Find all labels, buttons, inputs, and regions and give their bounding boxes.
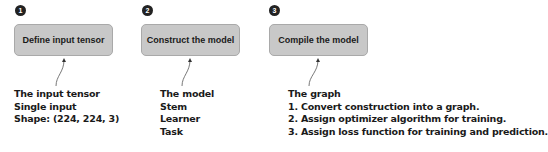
arrow-step-1	[56, 60, 64, 86]
arrow-step-3	[309, 60, 318, 86]
arrow-step-2	[182, 60, 190, 86]
